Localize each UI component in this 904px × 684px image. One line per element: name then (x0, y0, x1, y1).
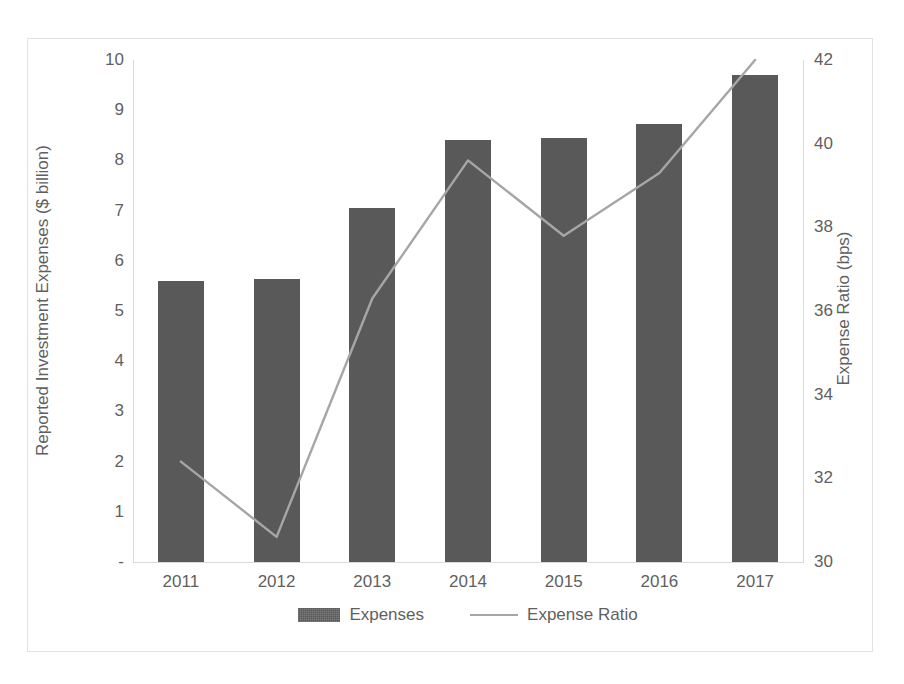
tick-text: 5 (115, 302, 124, 319)
tick-text: 34 (814, 386, 833, 403)
legend-item-expense-ratio[interactable]: Expense Ratio (470, 606, 638, 623)
tick-text: 36 (814, 302, 833, 319)
bar-2011 (158, 281, 204, 562)
x-tick-label: 2015 (519, 572, 609, 592)
right-axis-line (803, 60, 804, 563)
tick-text: 40 (814, 135, 833, 152)
tick-text: 42 (814, 51, 833, 68)
tick-text: 3 (115, 402, 124, 419)
x-tick-label: 2013 (327, 572, 417, 592)
legend-label-expense-ratio: Expense Ratio (527, 606, 638, 623)
tick-text: - (118, 553, 124, 570)
left-axis-line (133, 60, 134, 563)
bar-2016 (636, 124, 682, 562)
x-axis-line (133, 562, 804, 563)
chart-container: 10987654321- 42403836343230 201120122013… (0, 0, 904, 684)
tick-text: 30 (814, 553, 833, 570)
bar-2012 (254, 279, 300, 562)
x-tick-label: 2011 (136, 572, 226, 592)
line-swatch-icon (470, 614, 518, 616)
tick-text: 1 (115, 503, 124, 520)
bar-2015 (541, 138, 587, 562)
legend-item-expenses[interactable]: Expenses (298, 606, 424, 623)
x-tick-label: 2016 (614, 572, 704, 592)
legend-label-expenses: Expenses (349, 606, 424, 623)
tick-text: 10 (105, 51, 124, 68)
tick-text: 8 (115, 151, 124, 168)
tick-text: 9 (115, 101, 124, 118)
tick-text: 32 (814, 469, 833, 486)
chart-legend: Expenses Expense Ratio (133, 606, 803, 623)
x-tick-label: 2012 (232, 572, 322, 592)
tick-text: 2 (115, 453, 124, 470)
tick-text: 7 (115, 202, 124, 219)
tick-text: 4 (115, 352, 124, 369)
bar-2017 (732, 75, 778, 562)
tick-text: 6 (115, 252, 124, 269)
x-tick-label: 2017 (710, 572, 800, 592)
bar-swatch-icon (298, 608, 340, 622)
left-axis-title: Reported Investment Expenses ($ billion) (34, 91, 51, 511)
tick-text: 38 (814, 218, 833, 235)
right-axis-title: Expense Ratio (bps) (835, 159, 852, 459)
bar-2013 (349, 208, 395, 562)
x-tick-label: 2014 (423, 572, 513, 592)
bar-2014 (445, 140, 491, 562)
